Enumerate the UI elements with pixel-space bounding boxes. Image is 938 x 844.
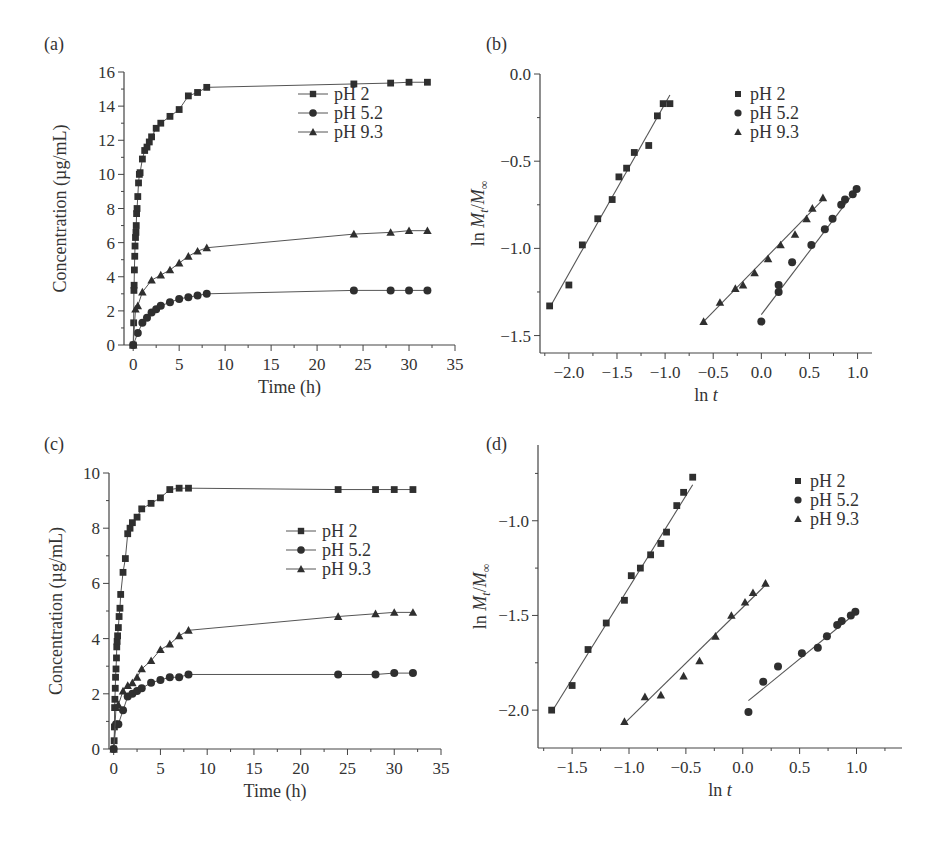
data-point xyxy=(334,670,342,678)
data-point xyxy=(115,624,122,631)
data-point xyxy=(387,286,395,294)
data-point xyxy=(406,79,413,86)
legend-marker xyxy=(310,91,316,97)
data-point xyxy=(117,605,124,612)
data-point xyxy=(680,489,687,496)
y-tick-label: 12 xyxy=(98,131,115,150)
data-point xyxy=(148,500,155,507)
legend-entry: pH 9.3 xyxy=(734,122,799,142)
series-pH-5-2 xyxy=(129,286,431,349)
x-tick-label: 25 xyxy=(355,355,372,374)
y-tick-label: −1.0 xyxy=(500,239,531,258)
y-tick-label: 8 xyxy=(92,519,101,538)
data-point xyxy=(641,693,650,701)
data-point xyxy=(757,318,765,326)
x-tick-label: 20 xyxy=(309,355,326,374)
series-pH-5-2 xyxy=(110,669,417,753)
y-axis-title: ln Mt/M∞ xyxy=(470,564,493,629)
data-point xyxy=(138,505,145,512)
y-title-sub-inf: ∞ xyxy=(477,181,491,190)
data-point xyxy=(134,514,141,521)
legend-label: pH 2 xyxy=(750,84,786,104)
legend-label: pH 5.2 xyxy=(810,490,859,510)
y-tick-label: 6 xyxy=(107,234,116,253)
legend-entry: pH 2 xyxy=(298,84,370,104)
data-point xyxy=(184,252,193,260)
x-tick-label: −1.5 xyxy=(602,363,633,382)
data-point xyxy=(603,620,610,627)
x-tick-label: −1.0 xyxy=(650,363,681,382)
y-tick-label: −1.0 xyxy=(498,512,529,531)
series-pH-2 xyxy=(110,485,416,753)
data-point xyxy=(166,298,174,306)
legend-marker xyxy=(309,109,317,117)
data-point xyxy=(621,597,628,604)
legend-label: pH 2 xyxy=(334,84,370,104)
series-pH-2 xyxy=(546,95,673,309)
data-point xyxy=(390,669,398,677)
x-axis-title: Time (h) xyxy=(258,377,321,398)
data-point xyxy=(156,676,164,684)
x-tick-label: 30 xyxy=(386,759,403,778)
legend-entry: pH 2 xyxy=(735,84,786,104)
data-point xyxy=(424,79,431,86)
legend-entry: pH 5.2 xyxy=(794,490,859,510)
legend-marker xyxy=(794,496,801,503)
x-tick-label: 1.0 xyxy=(846,758,867,777)
data-point xyxy=(548,707,555,714)
legend-label: pH 9.3 xyxy=(810,509,859,529)
data-point xyxy=(423,286,431,294)
data-point xyxy=(134,193,141,200)
data-point xyxy=(637,565,644,572)
data-point xyxy=(829,215,837,223)
y-tick-label: 10 xyxy=(83,464,100,483)
y-tick-label: −1.5 xyxy=(498,606,529,625)
data-point xyxy=(166,673,174,681)
data-point xyxy=(147,276,156,284)
x-axis-title-var: t xyxy=(727,780,733,800)
series-pH-5-2 xyxy=(757,185,860,326)
data-point xyxy=(759,678,767,686)
x-tick-label: 35 xyxy=(433,759,450,778)
data-point xyxy=(776,241,785,249)
data-point xyxy=(609,196,616,203)
panel-label: (b) xyxy=(486,34,507,55)
data-point xyxy=(569,682,576,689)
series-line xyxy=(114,673,413,749)
panel-d: (d)−1.5−1.0−0.50.00.51.0−2.0−1.5−1.0ln t… xyxy=(470,434,902,800)
data-point xyxy=(137,169,144,176)
data-point xyxy=(645,142,652,149)
data-point xyxy=(176,485,183,492)
data-point xyxy=(802,214,811,222)
x-axis-title: ln t xyxy=(694,385,719,405)
y-title-sub-inf: ∞ xyxy=(479,564,493,573)
y-title-M: M xyxy=(470,595,490,612)
data-point xyxy=(387,80,394,87)
data-point xyxy=(660,100,667,107)
data-point xyxy=(679,672,688,680)
data-point xyxy=(647,551,654,558)
data-point xyxy=(774,663,782,671)
panel-c: (c)051015202530350246810Time (h)Concentr… xyxy=(44,434,450,802)
x-tick-label: 5 xyxy=(156,759,165,778)
data-point xyxy=(175,259,184,267)
panel-label: (d) xyxy=(486,434,507,455)
x-axis-title-var: t xyxy=(713,385,719,405)
data-point xyxy=(775,288,783,296)
y-tick-label: 0 xyxy=(92,740,101,759)
data-point xyxy=(673,502,680,509)
x-axis-title: ln t xyxy=(708,780,733,800)
data-point xyxy=(157,494,164,501)
data-point xyxy=(807,241,815,249)
legend-marker xyxy=(734,109,741,116)
x-tick-label: 0.0 xyxy=(751,363,772,382)
data-point xyxy=(749,588,758,596)
x-tick-label: 1.0 xyxy=(847,363,868,382)
data-point xyxy=(372,670,380,678)
data-point xyxy=(120,569,127,576)
data-point xyxy=(203,84,210,91)
x-tick-label: 0.5 xyxy=(789,758,810,777)
data-point xyxy=(131,282,138,289)
data-point xyxy=(194,292,202,300)
legend-entry: pH 5.2 xyxy=(298,103,383,123)
